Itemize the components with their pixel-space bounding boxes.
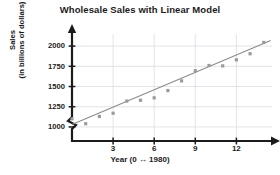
- data-point: [262, 41, 265, 44]
- data-point: [166, 89, 169, 92]
- data-point: [194, 69, 197, 72]
- y-tick-label: 2000: [31, 41, 65, 50]
- data-point: [235, 58, 238, 61]
- y-tick-label: 1250: [31, 102, 65, 111]
- data-point: [248, 52, 251, 55]
- chart-figure: Wholesale Sales with Linear Model Sales …: [0, 0, 280, 175]
- y-axis-break-symbol: [68, 117, 76, 141]
- data-point: [139, 99, 142, 102]
- y-tick-label: 1000: [31, 122, 65, 131]
- data-point: [221, 64, 224, 67]
- data-point: [180, 79, 183, 82]
- gridlines: [72, 34, 272, 145]
- linear-model-line: [72, 40, 271, 124]
- x-tick-label: 9: [185, 144, 205, 153]
- data-point: [207, 64, 210, 67]
- data-point: [70, 117, 73, 120]
- y-tick-label: 1750: [31, 62, 65, 71]
- data-point: [153, 96, 156, 99]
- x-axis-arrow: [271, 137, 280, 146]
- data-point: [125, 99, 128, 102]
- trend-line: [72, 40, 271, 124]
- data-point: [111, 112, 114, 115]
- y-axis-arrow: [68, 24, 76, 33]
- y-tick-label: 1500: [31, 82, 65, 91]
- x-tick-label: 12: [226, 144, 246, 153]
- x-tick-label: 6: [144, 144, 164, 153]
- data-point: [84, 122, 87, 125]
- data-point: [98, 115, 101, 118]
- x-tick-label: 3: [103, 144, 123, 153]
